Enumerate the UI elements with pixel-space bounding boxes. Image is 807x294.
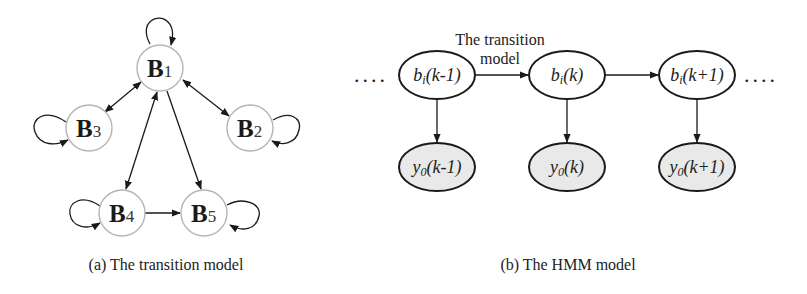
observed-node-k: y0(k) — [529, 143, 605, 191]
edge-b1-b5 — [167, 91, 201, 189]
caption-a: (a) The transition model — [89, 256, 244, 274]
leading-ellipsis: .... — [354, 62, 388, 87]
edge-b1-b4 — [126, 92, 157, 189]
transition-model-diagram: B1 B2 B3 B4 B5 (a) The transition model — [34, 18, 299, 274]
svg-text:y0(k-1): y0(k-1) — [411, 157, 462, 179]
caption-b: (b) The HMM model — [500, 256, 636, 274]
hidden-node-k-minus-1: bi(k-1) — [399, 51, 475, 99]
node-b5: B5 — [181, 190, 227, 236]
svg-text:y0(k): y0(k) — [548, 157, 584, 179]
observed-node-k-minus-1: y0(k-1) — [399, 143, 475, 191]
svg-text:y0(k+1): y0(k+1) — [667, 157, 724, 179]
node-b1: B1 — [137, 45, 183, 91]
figure: B1 B2 B3 B4 B5 (a) The transition model … — [0, 0, 807, 294]
node-b2: B2 — [227, 105, 273, 151]
self-loop-b5 — [227, 201, 259, 229]
hidden-node-k: bi(k) — [529, 51, 605, 99]
trailing-ellipsis: .... — [744, 62, 778, 87]
self-loop-b2 — [272, 115, 299, 143]
edge-b1-b3 — [105, 82, 141, 112]
self-loop-b4 — [70, 200, 100, 227]
svg-text:bi(k-1): bi(k-1) — [413, 65, 460, 87]
svg-text:bi(k): bi(k) — [551, 65, 583, 87]
svg-text:bi(k+1): bi(k+1) — [670, 65, 723, 87]
transition-edge-label-line1: The transition — [455, 31, 544, 48]
observed-node-k-plus-1: y0(k+1) — [659, 143, 735, 191]
node-b3: B3 — [66, 105, 112, 151]
edge-b1-b2 — [183, 80, 229, 116]
self-loop-b1 — [146, 18, 172, 45]
hmm-diagram: .... .... The transition model bi(k-1) b… — [354, 31, 778, 274]
self-loop-b3 — [34, 115, 68, 144]
node-b4: B4 — [99, 190, 145, 236]
transition-edge-label-line2: model — [480, 50, 521, 67]
hidden-node-k-plus-1: bi(k+1) — [659, 51, 735, 99]
